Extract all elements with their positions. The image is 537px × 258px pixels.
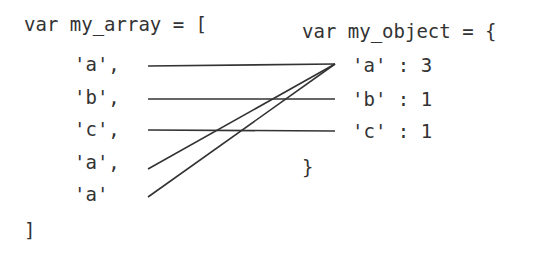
link-a-1 bbox=[148, 64, 335, 66]
link-a-2 bbox=[148, 64, 335, 169]
mapping-lines bbox=[0, 0, 537, 258]
